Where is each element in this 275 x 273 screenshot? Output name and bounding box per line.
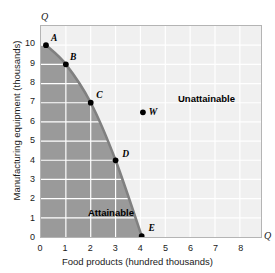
y-tick-9: 9 [19,59,35,68]
x-axis-title: Food products (hundred thousands) [0,256,275,267]
data-point-d [113,157,119,163]
data-point-b [63,61,69,67]
x-tick-8: 8 [233,244,249,253]
point-label-c: C [96,90,102,100]
data-point-w [140,109,146,115]
x-tick-5: 5 [157,244,173,253]
x-tick-0: 0 [32,244,48,253]
y-tick-3: 3 [19,175,35,184]
region-label-unattainable: Unattainable [178,93,235,104]
ppf-chart-figure: Manufacturing equipment (thousands) Q Q … [0,0,275,273]
y-tick-0: 0 [19,233,35,242]
x-tick-3: 3 [107,244,123,253]
point-label-d: D [122,149,129,159]
y-tick-8: 8 [19,78,35,87]
point-label-e: E [149,223,155,233]
y-tick-7: 7 [19,97,35,106]
point-label-a: A [51,33,57,43]
plot-area: Unattainable Attainable ABCDEW [40,25,262,238]
y-tick-1: 1 [19,214,35,223]
y-axis-end-marker: Q [41,11,48,22]
x-axis-end-marker: Q [264,230,271,241]
data-point-a [43,42,49,48]
y-tick-4: 4 [19,156,35,165]
y-tick-2: 2 [19,194,35,203]
data-point-c [88,100,94,106]
x-tick-2: 2 [82,244,98,253]
point-label-b: B [70,52,76,62]
x-tick-7: 7 [208,244,224,253]
x-tick-4: 4 [132,244,148,253]
y-tick-6: 6 [19,117,35,126]
x-tick-6: 6 [183,244,199,253]
y-tick-5: 5 [19,136,35,145]
point-label-w: W [149,107,157,117]
region-label-attainable: Attainable [88,207,134,218]
x-tick-1: 1 [57,244,73,253]
y-tick-10: 10 [19,39,35,48]
